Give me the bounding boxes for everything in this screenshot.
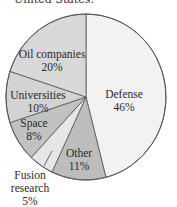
label-fusion: Fusion: [14, 169, 46, 181]
label-oil-pct: 20%: [41, 61, 63, 73]
label-space-pct: 8%: [26, 130, 42, 142]
label-defense: Defense: [105, 88, 143, 100]
label-fusion-pct: 5%: [22, 195, 38, 207]
label-space: Space: [20, 117, 47, 130]
label-other-pct: 11%: [69, 160, 90, 172]
label-other: Other: [66, 147, 92, 159]
label-fusion-2: research: [11, 182, 50, 194]
label-oil: Oil companies: [19, 48, 86, 61]
label-universities-pct: 10%: [27, 102, 49, 114]
label-defense-pct: 46%: [113, 101, 135, 113]
pie-chart: Defense 46% Other 11% Fusion research 5%…: [0, 0, 177, 207]
label-universities: Universities: [10, 89, 66, 101]
